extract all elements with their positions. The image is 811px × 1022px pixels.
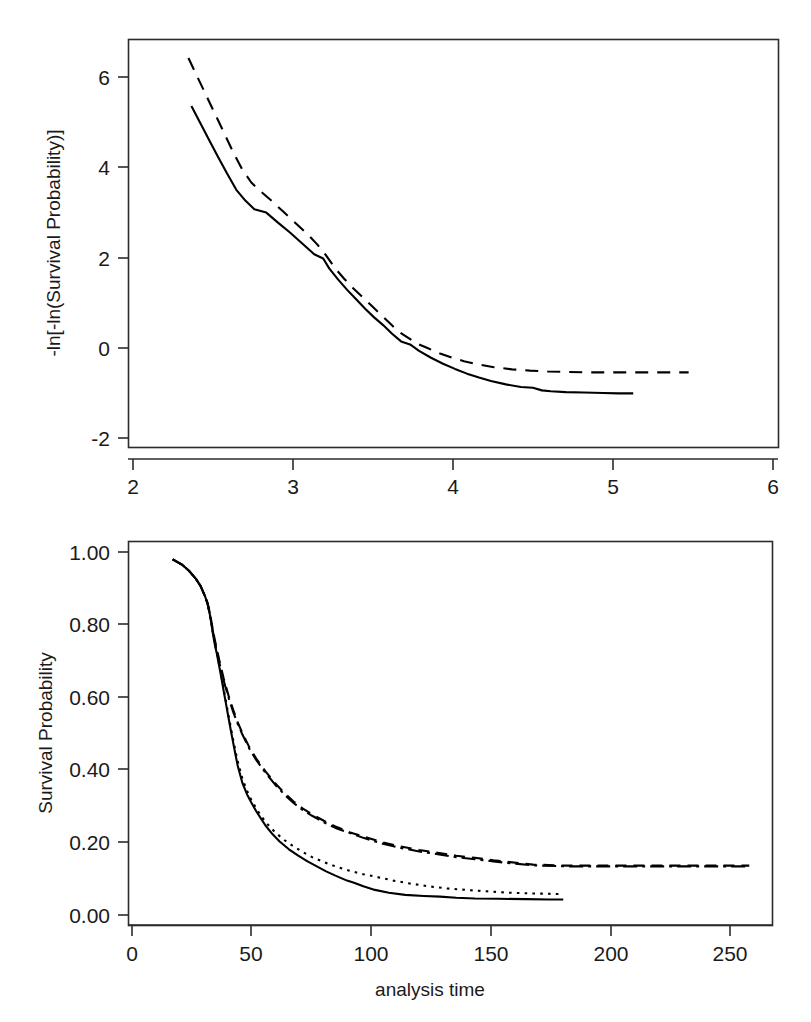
y-tick-label: 0.20 xyxy=(69,831,110,854)
y-tick-label: 0 xyxy=(98,337,110,360)
series-curve-solid xyxy=(173,559,564,899)
series-curve-dotted xyxy=(173,559,564,894)
x-axis-tick-labels: 0 50 100 150 200 250 xyxy=(126,942,747,965)
x-tick-label: 6 xyxy=(767,475,779,498)
x-axis-tick-labels: 2 3 4 5 6 xyxy=(127,475,779,498)
x-tick-label: 4 xyxy=(447,475,459,498)
y-tick-label: 2 xyxy=(98,247,110,270)
plot-frame xyxy=(129,40,779,448)
y-tick-label: 6 xyxy=(98,66,110,89)
series-group-1 xyxy=(191,106,633,393)
x-axis-ticks xyxy=(132,925,730,936)
x-tick-label: 3 xyxy=(287,475,299,498)
x-tick-label: 200 xyxy=(593,942,628,965)
y-axis-title: -ln[-ln(Survival Probability)] xyxy=(43,129,64,356)
x-tick-label: 5 xyxy=(607,475,619,498)
top-chart-panel: 6 4 2 0 -2 2 3 4 5 6 xyxy=(0,0,811,511)
y-tick-label: 4 xyxy=(98,156,110,179)
y-axis-ticks xyxy=(118,77,128,438)
bottom-series-group xyxy=(173,559,750,899)
series-curve-dashdot xyxy=(173,559,750,866)
y-tick-label: 0.80 xyxy=(69,613,110,636)
x-tick-label: 250 xyxy=(712,942,747,965)
y-tick-label: 0.40 xyxy=(69,758,110,781)
y-tick-label: 0.00 xyxy=(69,904,110,927)
series-curve-dashed xyxy=(173,559,750,865)
x-tick-label: 150 xyxy=(473,942,508,965)
y-tick-label: 1.00 xyxy=(69,541,110,564)
y-axis-tick-labels: 6 4 2 0 -2 xyxy=(91,66,110,450)
x-tick-label: 0 xyxy=(126,942,138,965)
x-axis-ticks xyxy=(133,459,773,470)
y-tick-label: 0.60 xyxy=(69,686,110,709)
series-group-2 xyxy=(188,58,688,372)
log-log-survival-plot: 6 4 2 0 -2 2 3 4 5 6 xyxy=(0,0,811,511)
kaplan-meier-survival-plot: 1.00 0.80 0.60 0.40 0.20 0.00 0 50 100 xyxy=(0,511,811,1022)
bottom-chart-panel: 1.00 0.80 0.60 0.40 0.20 0.00 0 50 100 xyxy=(0,511,811,1022)
figure-container: 6 4 2 0 -2 2 3 4 5 6 xyxy=(0,0,811,1022)
y-tick-label: -2 xyxy=(91,427,110,450)
x-axis-title: analysis time xyxy=(375,979,485,1000)
y-axis-title: Survival Probability xyxy=(35,652,56,814)
x-tick-label: 50 xyxy=(239,942,262,965)
top-series-group xyxy=(188,58,688,393)
x-tick-label: 100 xyxy=(353,942,388,965)
y-axis-tick-labels: 1.00 0.80 0.60 0.40 0.20 0.00 xyxy=(69,541,110,927)
x-tick-label: 2 xyxy=(127,475,139,498)
y-axis-ticks xyxy=(118,552,128,915)
plot-frame xyxy=(129,542,773,926)
